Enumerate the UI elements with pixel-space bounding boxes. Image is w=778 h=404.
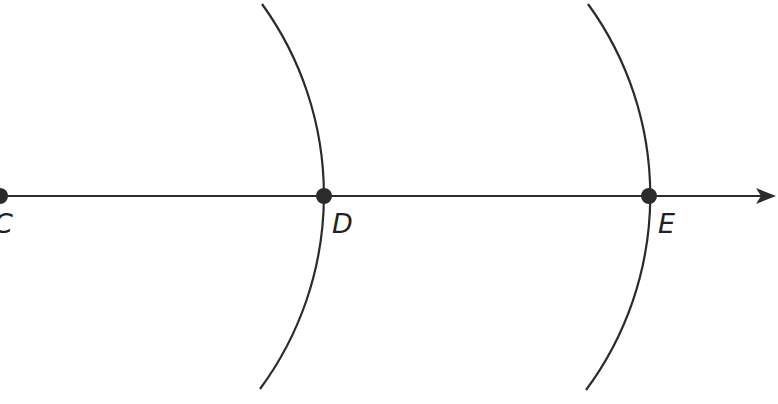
point-e	[641, 188, 657, 204]
label-d: D	[332, 208, 353, 239]
construction-diagram: C D E	[0, 0, 778, 404]
label-e: E	[658, 208, 675, 239]
label-c: C	[0, 208, 13, 239]
point-d	[316, 188, 332, 204]
point-c	[0, 188, 8, 204]
